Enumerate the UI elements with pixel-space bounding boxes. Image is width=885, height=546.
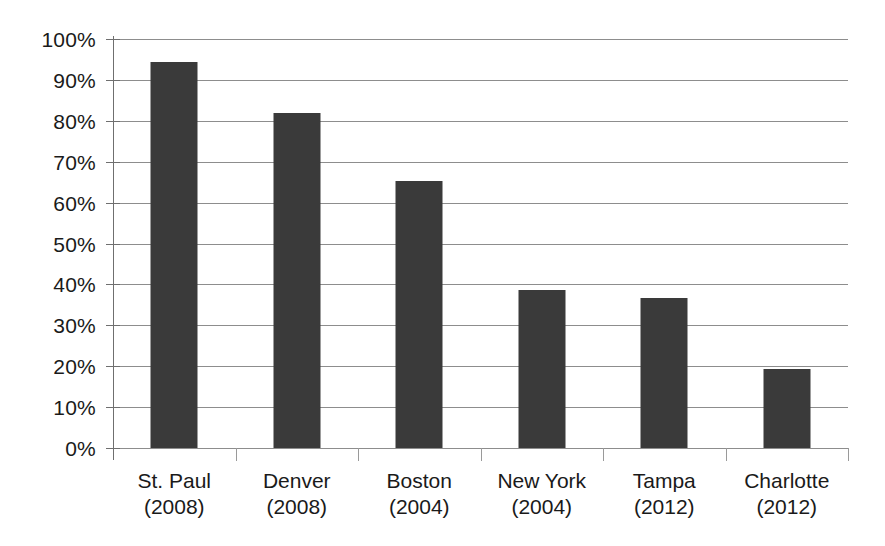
x-axis-category-year: (2008) — [236, 494, 359, 520]
y-axis-tick-label: 30% — [0, 315, 96, 336]
x-axis-category-label: Denver(2008) — [236, 468, 359, 520]
x-axis-category-year: (2004) — [481, 494, 604, 520]
bars-layer — [113, 39, 848, 448]
y-axis-tick-mark — [106, 325, 120, 326]
y-axis-tick-label: 80% — [0, 110, 96, 131]
x-axis-tick-mark — [848, 448, 849, 461]
x-axis-tick-mark — [726, 448, 727, 461]
x-axis-category-label: Tampa(2012) — [603, 468, 726, 520]
y-axis-tick-label: 10% — [0, 397, 96, 418]
y-axis-tick-mark — [106, 284, 120, 285]
x-axis-category-year: (2004) — [358, 494, 481, 520]
bar-slot — [726, 39, 849, 448]
x-axis-category-name: Denver — [236, 468, 359, 494]
x-axis-category-label: St. Paul(2008) — [113, 468, 236, 520]
bar — [641, 298, 688, 448]
x-axis-tick-mark — [358, 448, 359, 461]
x-axis-tick-labels: St. Paul(2008)Denver(2008)Boston(2004)Ne… — [113, 468, 848, 528]
x-axis-tick-mark — [603, 448, 604, 461]
bar — [518, 290, 565, 448]
x-axis-category-name: Tampa — [603, 468, 726, 494]
y-axis-tick-mark — [106, 80, 120, 81]
x-axis-category-name: Charlotte — [726, 468, 849, 494]
y-axis-tick-mark — [106, 448, 120, 449]
x-axis-category-label: New York(2004) — [481, 468, 604, 520]
y-axis-tick-labels: 100%90%80%70%60%50%40%30%20%10%0% — [0, 0, 96, 546]
x-axis-category-year: (2012) — [603, 494, 726, 520]
x-axis-category-name: Boston — [358, 468, 481, 494]
y-axis-tick-mark — [106, 39, 120, 40]
bar-slot — [358, 39, 481, 448]
bar-slot — [113, 39, 236, 448]
bar-slot — [236, 39, 359, 448]
y-axis-tick-mark — [106, 203, 120, 204]
bar-slot — [481, 39, 604, 448]
x-axis-category-name: New York — [481, 468, 604, 494]
y-axis-tick-mark — [106, 244, 120, 245]
y-axis-tick-label: 70% — [0, 151, 96, 172]
bar — [273, 113, 320, 448]
x-axis-category-year: (2012) — [726, 494, 849, 520]
y-axis-tick-label: 90% — [0, 69, 96, 90]
x-axis-category-label: Boston(2004) — [358, 468, 481, 520]
x-axis-tick-mark — [236, 448, 237, 461]
y-axis-tick-mark — [106, 121, 120, 122]
x-axis-category-year: (2008) — [113, 494, 236, 520]
bar — [763, 369, 810, 448]
y-axis-tick-label: 100% — [0, 29, 96, 50]
bar-chart: 100%90%80%70%60%50%40%30%20%10%0% St. Pa… — [0, 0, 885, 546]
y-axis-tick-label: 20% — [0, 356, 96, 377]
y-axis-tick-label: 0% — [0, 438, 96, 459]
bar — [151, 62, 198, 449]
y-axis-tick-mark — [106, 407, 120, 408]
y-axis-tick-mark — [106, 366, 120, 367]
x-axis-category-name: St. Paul — [113, 468, 236, 494]
x-axis-category-label: Charlotte(2012) — [726, 468, 849, 520]
bar-slot — [603, 39, 726, 448]
y-axis-tick-label: 50% — [0, 233, 96, 254]
bar — [396, 181, 443, 448]
y-axis-tick-label: 60% — [0, 192, 96, 213]
y-axis-tick-label: 40% — [0, 274, 96, 295]
y-axis-tick-mark — [106, 162, 120, 163]
x-axis-tick-mark — [481, 448, 482, 461]
